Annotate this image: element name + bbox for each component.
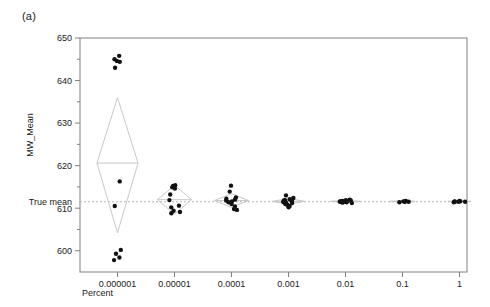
data-point xyxy=(173,186,177,190)
data-point xyxy=(463,200,467,204)
data-point xyxy=(397,200,401,204)
y-tick-label: 630 xyxy=(57,118,72,128)
data-point xyxy=(178,210,182,214)
data-point xyxy=(235,208,239,212)
x-tick-label: 0.01 xyxy=(337,279,355,289)
data-point xyxy=(177,203,181,207)
y-tick-label: 640 xyxy=(57,76,72,86)
data-point xyxy=(112,258,116,262)
x-tick-label: 1 xyxy=(457,279,462,289)
data-point xyxy=(344,200,348,204)
data-point xyxy=(113,204,117,208)
data-point xyxy=(118,60,122,64)
data-point xyxy=(229,183,233,187)
data-point xyxy=(117,255,121,259)
data-point xyxy=(167,198,171,202)
data-point xyxy=(406,200,410,204)
x-tick-label: 0.1 xyxy=(396,279,409,289)
data-point xyxy=(118,179,122,183)
scatter-plot: 6006106206306406500.0000010.000010.00010… xyxy=(0,0,490,307)
true-mean-label: True mean xyxy=(29,197,72,207)
data-point xyxy=(169,211,173,215)
data-point xyxy=(350,201,354,205)
panel-label: (a) xyxy=(22,10,36,22)
data-point xyxy=(452,200,456,204)
data-point xyxy=(286,205,290,209)
data-point xyxy=(403,200,407,204)
y-axis-title: MW_Mean xyxy=(25,95,35,175)
data-point xyxy=(113,66,117,70)
data-point xyxy=(227,189,231,193)
y-tick-label: 620 xyxy=(57,161,72,171)
data-point xyxy=(168,192,172,196)
figure-panel: (a) MW_Mean Percent 6006106206306406500.… xyxy=(0,0,490,307)
y-tick-label: 650 xyxy=(57,33,72,43)
x-axis-title: Percent xyxy=(82,288,113,298)
x-tick-label: 0.001 xyxy=(277,279,300,289)
mean-diamond xyxy=(97,98,138,233)
y-tick-label: 600 xyxy=(57,246,72,256)
x-tick-label: 0.0001 xyxy=(218,279,246,289)
x-tick-label: 0.00001 xyxy=(158,279,191,289)
data-point xyxy=(117,54,121,58)
plot-frame xyxy=(80,38,467,272)
data-point xyxy=(340,200,344,204)
data-point xyxy=(114,252,118,256)
data-point xyxy=(119,248,123,252)
data-point xyxy=(284,193,288,197)
